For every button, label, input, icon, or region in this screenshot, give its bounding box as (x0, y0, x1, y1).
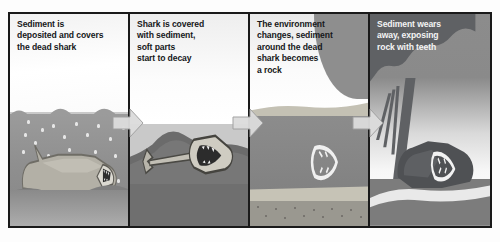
fossilisation-diagram: Sediment is deposited and covers the dea… (0, 0, 500, 242)
right-arrow-icon-2 (231, 106, 265, 140)
seabed-base (10, 190, 128, 226)
fossil-jaw-icon (309, 141, 340, 183)
panel-4-caption: Sediment wears away, exposing rock with … (377, 19, 485, 53)
lower-sediment-layer (130, 184, 248, 226)
gritty-base (250, 201, 368, 226)
panel-2-caption: Shark is covered with sediment, soft par… (137, 19, 243, 65)
right-arrow-icon-1 (111, 106, 145, 140)
panel-1-caption: Sediment is deposited and covers the dea… (17, 19, 123, 53)
panel-4-sediment-wears-away: Sediment wears away, exposing rock with … (370, 14, 490, 226)
exposed-boulder-icon (394, 135, 478, 190)
panel-3-caption: The environment changes, sediment around… (257, 19, 363, 76)
right-arrow-icon-3 (351, 106, 385, 140)
shark-skeleton-icon (137, 124, 241, 179)
